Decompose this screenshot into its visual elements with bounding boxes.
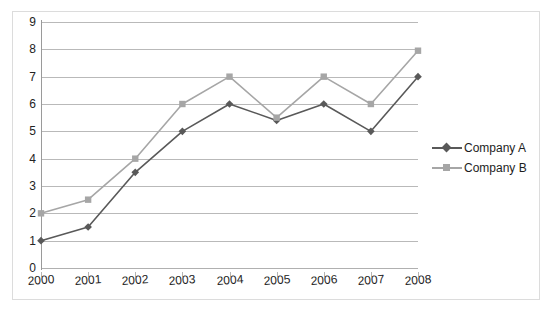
series-layer [41,22,418,268]
legend-key-icon [432,142,462,154]
x-tick-label-2002: 2002 [122,273,149,287]
legend-marker-diamond-icon [442,143,452,153]
legend-marker-square-icon [443,164,450,171]
x-tick-label-2005: 2005 [263,273,290,287]
y-tick-label-1: 1 [8,235,36,247]
data-point-2008 [415,48,421,54]
data-point-2001 [85,196,91,202]
data-point-2004 [226,73,232,79]
y-tick-label-3: 3 [8,180,36,192]
x-axis-tick-labels: 200020012002200320042005200620072008 [41,272,418,302]
x-tick-label-2008: 2008 [404,273,431,287]
legend-label: Company A [462,141,526,155]
y-tick-label-0: 0 [8,262,36,274]
data-point-2004 [226,100,234,108]
x-tick-label-2004: 2004 [216,273,243,287]
y-tick-label-7: 7 [8,71,36,83]
y-tick-label-5: 5 [8,125,36,137]
gridline-0 [41,268,418,269]
y-tick-label-8: 8 [8,43,36,55]
legend-label: Company B [462,161,527,175]
data-point-2003 [179,101,185,107]
y-tick-label-6: 6 [8,98,36,110]
data-point-2002 [132,155,138,161]
x-tick-label-2006: 2006 [310,273,337,287]
y-axis-tick-labels: 0123456789 [0,22,36,268]
data-point-2006 [321,73,327,79]
data-point-2000 [38,210,44,216]
y-tick-label-4: 4 [8,153,36,165]
chart-legend: Company ACompany B [432,138,532,178]
x-tick-label-2000: 2000 [27,273,54,287]
data-point-2007 [368,101,374,107]
line-chart: 0123456789 20002001200220032004200520062… [0,0,553,315]
data-point-2005 [273,114,279,120]
legend-item-company-a[interactable]: Company A [432,138,532,158]
x-tick-label-2003: 2003 [169,273,196,287]
y-tick-label-9: 9 [8,16,36,28]
x-tick-label-2001: 2001 [74,273,101,287]
x-tick-label-2007: 2007 [357,273,384,287]
y-tick-label-2: 2 [8,207,36,219]
legend-item-company-b[interactable]: Company B [432,158,532,178]
data-point-2006 [320,100,328,108]
series-company-b [38,48,421,217]
series-company-a [37,73,422,245]
legend-key-icon [432,162,462,174]
